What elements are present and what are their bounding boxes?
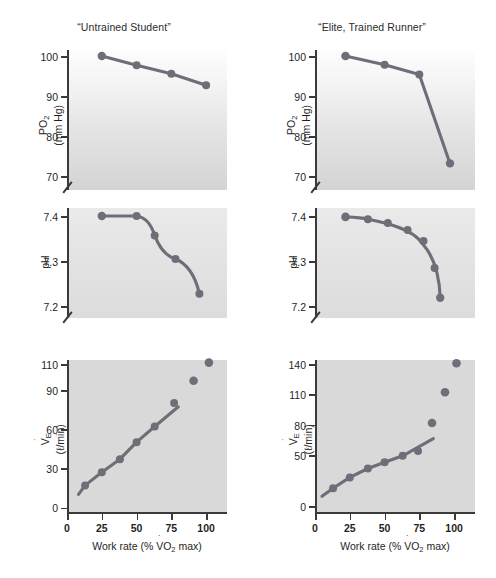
x-tick-label: 25: [96, 522, 108, 534]
x-tick-label: 75: [165, 522, 177, 534]
ve-label-main: VE: [287, 433, 299, 445]
x-tick: [350, 514, 352, 520]
x-axis-title-suffix: max): [424, 540, 450, 552]
y-tick-label: 0: [300, 501, 306, 513]
x-tick-label: 50: [379, 522, 391, 534]
y-tick-label: 140: [288, 359, 306, 371]
panel-right-po2: 100 90 80 70 PO2 (mm Hg): [315, 50, 475, 190]
x-tick-label: 50: [131, 522, 143, 534]
x-tick: [385, 514, 387, 520]
po2-label-units: (mm Hg): [299, 105, 311, 146]
x-axis-title: Work rate (% VO2 max): [47, 540, 247, 554]
x-tick-label: 0: [312, 522, 318, 534]
x-tick: [419, 514, 421, 520]
ve-label-main: VE: [39, 433, 51, 445]
y-axis-title-ph: pH: [287, 222, 299, 302]
panel-right-ve: 140 110 80 50 0 0 25 50 75 100 VE (ℓ/min…: [315, 360, 475, 514]
column-elite-trained-runner: “Elite, Trained Runner” 100 90 80 70 PO2…: [248, 0, 496, 578]
y-tick-label: 7.2: [291, 301, 306, 313]
x-axis-title-prefix: Work rate (%: [340, 540, 404, 552]
vo2-dot: V: [404, 540, 411, 552]
y-axis-title-po2: PO2 (mm Hg): [285, 77, 312, 173]
x-tick: [137, 514, 139, 520]
x-tick: [206, 514, 208, 520]
po2-label-main: PO2: [285, 116, 297, 135]
y-tick-label: 0: [52, 502, 58, 514]
y-tick-label: 7.2: [43, 301, 58, 313]
x-tick-label: 100: [445, 522, 463, 534]
ve-label-units: (ℓ/min): [301, 424, 313, 454]
y-axis-title-po2: PO2 (mm Hg): [37, 77, 64, 173]
x-tick-label: 100: [197, 522, 215, 534]
po2-label-units: (mm Hg): [51, 105, 63, 146]
panel-right-ph: 7.4 7.3 7.2 pH: [315, 208, 475, 318]
ve-label-units: (ℓ/min): [53, 424, 65, 454]
y-tick-label: 7.4: [291, 211, 306, 223]
panel-left-ve: 110 90 60 30 0 0 25 50 75 100 VE (ℓ/min)…: [67, 360, 227, 514]
column-untrained-student: “Untrained Student” 100 90 80 70 PO2 (mm…: [0, 0, 248, 578]
series-left-ve: [67, 360, 227, 514]
series-right-ve: [315, 360, 475, 514]
physiology-comparison-figure: “Untrained Student” 100 90 80 70 PO2 (mm…: [0, 0, 496, 578]
y-tick-label: 110: [41, 359, 58, 371]
y-axis-title-ph: pH: [39, 222, 51, 302]
panel-left-ph: 7.4 7.3 7.2 pH: [67, 208, 227, 318]
series-left-ph: [67, 208, 227, 318]
x-tick-label: 0: [64, 522, 70, 534]
series-left-po2: [67, 50, 227, 190]
series-right-po2: [315, 50, 475, 190]
x-axis-title: Work rate (% VO2 max): [295, 540, 495, 554]
x-tick-label: 75: [413, 522, 425, 534]
panel-title-right: “Elite, Trained Runner”: [248, 21, 496, 33]
panel-left-po2: 100 90 80 70 PO2 (mm Hg): [67, 50, 227, 190]
x-tick-label: 25: [344, 522, 356, 534]
po2-label-main: PO2: [37, 116, 49, 135]
x-tick: [67, 514, 69, 520]
x-axis-title-prefix: Work rate (%: [92, 540, 156, 552]
y-tick-label: 100: [40, 51, 58, 63]
x-tick: [454, 514, 456, 520]
y-tick-label: 100: [288, 51, 306, 63]
x-tick: [102, 514, 104, 520]
y-axis-title-ve: VE (ℓ/min): [287, 392, 314, 486]
panel-title-left: “Untrained Student”: [0, 21, 248, 33]
y-tick-label: 7.4: [43, 211, 58, 223]
x-tick: [171, 514, 173, 520]
series-right-ph: [315, 208, 475, 318]
x-tick: [315, 514, 317, 520]
y-axis-title-ve: VE (ℓ/min): [39, 392, 66, 486]
x-axis-title-suffix: max): [176, 540, 202, 552]
vo2-dot: V: [156, 540, 163, 552]
